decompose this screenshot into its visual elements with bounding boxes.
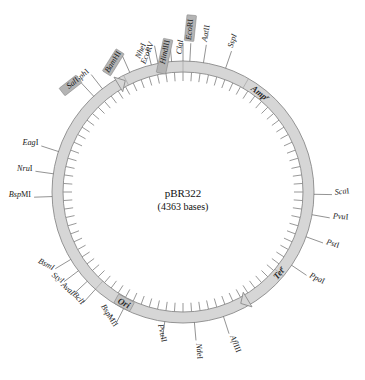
ring-tick bbox=[293, 208, 302, 209]
ring-tick bbox=[272, 259, 279, 264]
ring-tick bbox=[98, 270, 104, 276]
site-bspmi: BspMI bbox=[9, 190, 32, 199]
site-scai: ScaI bbox=[334, 186, 350, 197]
ring-tick bbox=[222, 296, 225, 304]
ring-tick bbox=[199, 302, 200, 311]
leader-line bbox=[55, 259, 70, 268]
leader-line bbox=[306, 237, 323, 243]
ring-tick bbox=[133, 83, 137, 91]
ring-tick bbox=[74, 238, 82, 242]
leader-line bbox=[223, 317, 229, 334]
ring-tick bbox=[272, 120, 279, 125]
site-afliii: AflIII bbox=[228, 333, 243, 354]
ring-tick bbox=[71, 231, 79, 234]
leader-line bbox=[190, 43, 191, 61]
ring-tick bbox=[293, 175, 302, 176]
ring-tick bbox=[92, 265, 99, 271]
site-ppai: PpaI bbox=[307, 270, 326, 286]
ring-tick bbox=[166, 73, 167, 82]
plasmid-map-svg: AmprTetrOri SspIAatIIEcoRIClaIHindIIIEco… bbox=[0, 0, 365, 380]
ring-tick bbox=[291, 216, 300, 218]
ring-tick bbox=[157, 75, 159, 84]
site-ndei: NdeI bbox=[194, 342, 204, 360]
site-sspi: SspI bbox=[226, 31, 239, 48]
leader-line bbox=[35, 171, 53, 174]
ring-tick bbox=[291, 166, 300, 168]
ring-tick bbox=[133, 293, 137, 301]
ring-tick bbox=[174, 303, 175, 312]
leader-line bbox=[122, 56, 129, 72]
ring-tick bbox=[87, 259, 94, 264]
site-psti: PstI bbox=[324, 237, 341, 250]
ring-tick bbox=[261, 270, 267, 276]
ring-tick bbox=[280, 245, 288, 249]
ring-tick bbox=[141, 80, 144, 88]
ring-tick bbox=[284, 142, 292, 146]
ring-tick bbox=[111, 281, 116, 288]
site-pvuii: PvuII bbox=[156, 322, 169, 343]
ring-tick bbox=[64, 208, 73, 209]
ring-tick bbox=[214, 299, 217, 308]
site-bsmi: BsmI bbox=[37, 256, 57, 272]
ring-tick bbox=[207, 300, 209, 309]
ring-tick bbox=[229, 293, 233, 301]
ring-tick bbox=[111, 96, 116, 103]
ring-tick bbox=[174, 72, 175, 81]
ring-tick bbox=[191, 72, 192, 81]
ring-tick bbox=[294, 183, 303, 184]
ring-tick bbox=[92, 113, 99, 119]
ring-tick bbox=[166, 302, 167, 311]
ring-tick bbox=[191, 303, 192, 312]
site-pvui: PvuI bbox=[332, 211, 349, 221]
plasmid-size: (4363 bases) bbox=[158, 201, 209, 213]
ring-tick bbox=[284, 238, 292, 242]
site-bspmii: BspMII bbox=[99, 303, 120, 329]
ring-tick bbox=[63, 200, 72, 201]
leader-line bbox=[312, 215, 330, 218]
ring-tick bbox=[149, 77, 152, 86]
ring-tick bbox=[82, 252, 90, 257]
leader-line bbox=[292, 265, 307, 275]
center-annotation: pBR322 (4363 bases) bbox=[158, 187, 209, 213]
ring-tick bbox=[125, 289, 129, 297]
ring-tick bbox=[98, 107, 104, 113]
ring-tick bbox=[290, 158, 299, 161]
ring-tick bbox=[267, 113, 274, 119]
ring-tick bbox=[104, 276, 110, 283]
leader-line bbox=[226, 51, 232, 68]
leader-line bbox=[203, 45, 206, 63]
ring-tick bbox=[64, 175, 73, 176]
ring-tick bbox=[118, 285, 123, 293]
ring-tick bbox=[250, 281, 255, 288]
ring-tick bbox=[256, 276, 262, 283]
ring-tick bbox=[261, 107, 267, 113]
ring-tick bbox=[294, 200, 303, 201]
plasmid-map-diagram: AmprTetrOri SspIAatIIEcoRIClaIHindIIIEco… bbox=[0, 0, 365, 380]
ring-tick bbox=[287, 150, 295, 153]
ring-tick bbox=[229, 83, 233, 91]
ring-tick bbox=[256, 101, 262, 108]
ring-tick bbox=[87, 120, 94, 125]
ring-tick bbox=[243, 285, 248, 293]
leader-line bbox=[194, 323, 196, 341]
ring-tick bbox=[157, 300, 159, 309]
ring-tick bbox=[68, 158, 77, 161]
site-clai: ClaI bbox=[175, 38, 186, 55]
ring-tick bbox=[118, 91, 123, 99]
ring-tick bbox=[276, 127, 284, 132]
ring-tick bbox=[82, 127, 90, 132]
ring-tick bbox=[276, 252, 284, 257]
ring-tick bbox=[222, 80, 225, 88]
leader-line bbox=[81, 83, 93, 96]
ring-tick bbox=[287, 231, 295, 234]
site-eagi: EagI bbox=[22, 138, 39, 147]
ring-tick bbox=[74, 142, 82, 146]
ring-tick bbox=[78, 134, 86, 138]
ring-tick bbox=[141, 296, 144, 304]
ring-tick bbox=[290, 223, 299, 226]
ring-tick bbox=[71, 150, 79, 153]
ring-tick bbox=[104, 101, 110, 108]
ring-tick bbox=[149, 299, 152, 308]
ring-tick bbox=[66, 216, 75, 218]
plasmid-name: pBR322 bbox=[165, 187, 202, 199]
